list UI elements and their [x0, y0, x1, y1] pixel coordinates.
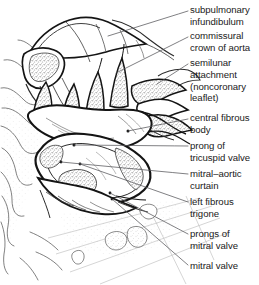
label-central-fibrous-body: central fibrous body [190, 112, 250, 136]
label-subpulmonary-infundibulum: subpulmonary infundibulum [190, 4, 250, 28]
label-mitral-valve: mitral valve [190, 260, 238, 272]
label-prong-of-tricuspid-valve: prong of tricuspid valve [190, 140, 250, 164]
label-left-fibrous-trigone: left fibrous trigone [190, 196, 234, 220]
label-mitral-aortic-curtain: mitral–aortic curtain [190, 168, 242, 192]
label-semilunar-attachment-noncoronary-leaflet: semilunar attachment (noncoronary leafle… [190, 57, 246, 104]
anatomical-figure: subpulmonary infundibulumcommissural cro… [0, 0, 259, 285]
label-commissural-crown-of-aorta: commissural crown of aorta [190, 30, 250, 54]
label-prongs-of-mitral-valve: prongs of mitral valve [190, 228, 238, 252]
